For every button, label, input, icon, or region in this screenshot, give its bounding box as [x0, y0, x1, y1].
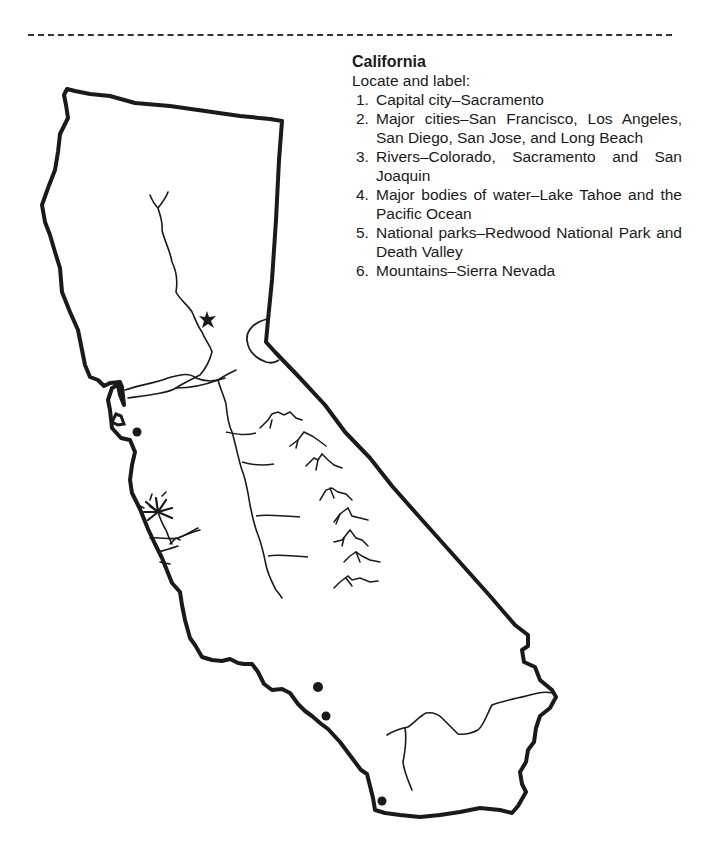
- tributary: [256, 515, 300, 517]
- tributary: [226, 432, 256, 435]
- colorado-river-branch: [387, 692, 553, 735]
- southern-river: [403, 728, 412, 790]
- capital-star-icon: [199, 311, 216, 328]
- state-outline: [42, 89, 556, 817]
- city-dot-san-jose: [133, 428, 142, 437]
- tributary: [268, 555, 308, 557]
- city-dot-los-angeles: [313, 682, 323, 692]
- california-outline-map: [0, 0, 711, 843]
- lake-tahoe: [247, 319, 279, 363]
- san-joaquin-river: [218, 380, 282, 598]
- city-dot-long-beach: [322, 712, 331, 721]
- tributary: [242, 462, 274, 465]
- sierra-nevada-mountains: [260, 412, 380, 588]
- sacramento-river: [150, 192, 212, 388]
- city-dot-san-diego: [378, 797, 387, 806]
- san-francisco-bay: [112, 414, 124, 425]
